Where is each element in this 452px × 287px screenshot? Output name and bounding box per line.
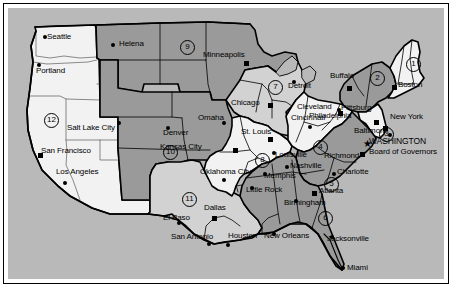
city-label-san-antonio: San Antonio — [171, 233, 213, 241]
city-marker-oklahoma-city — [222, 178, 226, 182]
city-marker-minneapolis — [244, 61, 249, 66]
city-label-charlotte: Charlotte — [337, 168, 369, 176]
city-label-dallas: Dallas — [204, 204, 226, 212]
city-label-los-angeles: Los Angeles — [56, 168, 99, 176]
city-label-seattle: Seattle — [47, 33, 71, 41]
city-label-richmond: Richmond — [324, 152, 359, 160]
city-marker-cincinnati — [308, 125, 312, 129]
district-9-badge[interactable]: 9 — [180, 40, 195, 55]
city-marker-salt-lake-city — [117, 121, 121, 125]
city-label-boston: Boston — [398, 81, 422, 89]
city-marker-houston — [226, 243, 230, 247]
city-label-little-rock: Little Rock — [246, 186, 282, 194]
city-label-atlanta: Atlanta — [319, 187, 343, 195]
city-marker-san-antonio — [207, 242, 211, 246]
city-label-omaha: Omaha — [198, 114, 224, 122]
city-label-houston: Houston — [228, 232, 257, 240]
city-label-buffalo: Buffalo — [330, 72, 354, 80]
district-1-badge[interactable]: 1 — [406, 57, 421, 72]
city-label-portland: Portland — [36, 67, 65, 75]
city-marker-atlanta — [312, 191, 317, 196]
city-label-birmingham: Birmingham — [284, 199, 326, 207]
city-label-minneapolis: Minneapolis — [203, 51, 245, 59]
city-label-pittsburg: Pittsburg — [341, 104, 372, 112]
city-marker-st-louis — [268, 137, 273, 142]
city-label-new-york: New York — [390, 113, 423, 121]
city-label-oklahoma-city: Oklahoma City — [200, 168, 251, 176]
district-6-badge[interactable]: 6 — [318, 211, 333, 226]
city-marker-philadelphia — [374, 120, 379, 125]
city-label-st-louis: St. Louis — [241, 128, 271, 136]
city-marker-chicago — [268, 103, 273, 108]
city-label-memphis: Memphis — [264, 172, 296, 180]
board-of-governors-label: Board of Governors — [369, 148, 437, 156]
city-marker-kansas-city — [233, 148, 238, 153]
city-label-louisville: Louisville — [275, 151, 307, 159]
city-marker-los-angeles — [63, 181, 67, 185]
city-label-chicago: Chicago — [231, 99, 260, 107]
city-marker-buffalo — [347, 86, 352, 91]
district-11-badge[interactable]: 11 — [182, 192, 197, 207]
city-label-denver: Denver — [163, 129, 188, 137]
city-label-san-francisco: San Francisco — [41, 147, 91, 155]
city-label-cincinnati: Cincinnati — [291, 114, 325, 122]
city-marker-charlotte — [332, 172, 336, 176]
city-marker-dallas — [212, 216, 217, 221]
district-12-badge[interactable]: 12 — [44, 113, 59, 128]
city-label-miami: Miami — [347, 264, 368, 272]
city-label-cleveland: Cleveland — [297, 103, 332, 111]
city-marker-richmond — [360, 152, 365, 157]
city-marker-nashville — [285, 165, 289, 169]
city-label-nashville: Nashville — [290, 162, 322, 170]
district-8-badge[interactable]: 8 — [255, 153, 270, 168]
city-marker-boston — [392, 85, 397, 90]
washington-label: WASHINGTON — [369, 137, 426, 145]
city-label-jacksonville: Jacksonville — [327, 235, 369, 243]
city-label-kansas-city: Kansas City — [160, 143, 202, 151]
city-marker-miami — [341, 266, 345, 270]
district-2-badge[interactable]: 2 — [370, 71, 385, 86]
federal-reserve-districts-map: 1 2 3 4 5 6 7 8 9 10 11 12 ★ Boston New … — [0, 0, 452, 287]
city-label-helena: Helena — [119, 40, 144, 48]
district-7-badge[interactable]: 7 — [268, 80, 283, 95]
city-label-detroit: Detroit — [288, 82, 311, 90]
city-label-baltimore: Baltimore — [354, 127, 387, 135]
city-marker-helena — [111, 43, 115, 47]
city-label-el-paso: El Paso — [163, 214, 190, 222]
city-label-new-orleans: New Orleans — [264, 232, 309, 240]
city-label-salt-lake-city: Salt Lake City — [67, 124, 115, 132]
